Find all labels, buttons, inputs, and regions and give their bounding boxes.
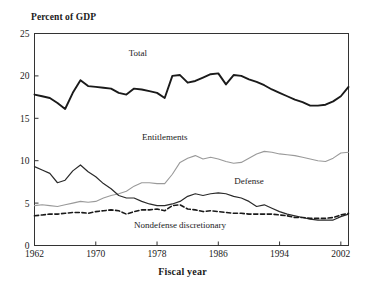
y-tick-label: 10 — [20, 156, 30, 166]
x-axis: 196219701978198619942002 — [25, 242, 351, 260]
x-tick-label: 2002 — [331, 249, 350, 259]
x-tick-label: 1978 — [148, 249, 167, 259]
chart-svg: 0510152025 196219701978198619942002 Tota… — [0, 0, 365, 292]
series-line-1 — [35, 151, 349, 206]
x-tick-label: 1986 — [209, 249, 228, 259]
y-tick-label: 5 — [25, 199, 30, 209]
y-axis: 0510152025 — [20, 29, 39, 251]
series-label-1: Entitlements — [142, 132, 188, 142]
series-label-0: Total — [129, 48, 148, 58]
x-axis-title: Fiscal year — [0, 266, 365, 277]
series-label-2: Defense — [234, 176, 263, 186]
series-label-3: Nondefense discretionary — [134, 220, 227, 230]
series-line-3 — [35, 205, 349, 219]
y-tick-label: 20 — [20, 71, 30, 81]
chart-container: Percent of GDP 0510152025 19621970197819… — [0, 0, 365, 292]
x-tick-label: 1970 — [86, 249, 105, 259]
y-tick-label: 15 — [20, 114, 30, 124]
series-line-2 — [35, 165, 349, 220]
plot-frame — [35, 34, 349, 246]
y-tick-label: 25 — [20, 29, 30, 39]
series-labels: TotalEntitlementsDefenseNondefense discr… — [129, 48, 264, 229]
series-layer — [35, 73, 349, 220]
x-tick-label: 1994 — [270, 249, 289, 259]
x-tick-label: 1962 — [25, 249, 44, 259]
series-line-0 — [35, 73, 349, 109]
